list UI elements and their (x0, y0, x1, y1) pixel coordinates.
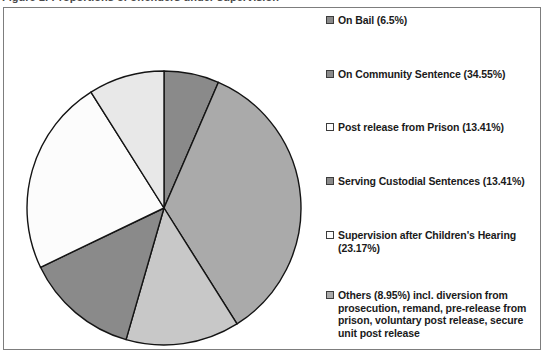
legend-swatch-post-release-from-prison (326, 123, 334, 131)
legend-swatch-on-community-sentence (326, 70, 334, 78)
figure-screenshot: Figure 1: Proportions of offenders under… (0, 0, 544, 354)
legend-label-supervision-after-childrens-hearing: Supervision after Children's Hearing (23… (338, 229, 538, 254)
cut-off-caption: Figure 1: Proportions of offenders under… (0, 0, 544, 7)
pie-slice-group (27, 71, 301, 345)
legend-item-others[interactable]: Others (8.95%) incl. diversion from pros… (326, 289, 538, 339)
legend-swatch-on-bail (326, 16, 334, 24)
legend-label-on-bail: On Bail (6.5%) (338, 14, 407, 27)
legend-swatch-supervision-after-childrens-hearing (326, 231, 334, 239)
legend-item-supervision-after-childrens-hearing[interactable]: Supervision after Children's Hearing (23… (326, 229, 538, 254)
legend-label-others: Others (8.95%) incl. diversion from pros… (338, 289, 538, 339)
legend-swatch-others (326, 291, 334, 299)
legend-item-serving-custodial-sentences[interactable]: Serving Custodial Sentences (13.41%) (326, 175, 538, 188)
legend-label-on-community-sentence: On Community Sentence (34.55%) (338, 68, 505, 81)
legend-label-serving-custodial-sentences: Serving Custodial Sentences (13.41%) (338, 175, 525, 188)
cut-off-caption-text: Figure 1: Proportions of offenders under… (2, 0, 279, 3)
legend-item-post-release-from-prison[interactable]: Post release from Prison (13.41%) (326, 121, 538, 134)
legend-item-on-community-sentence[interactable]: On Community Sentence (34.55%) (326, 68, 538, 81)
chart-legend: On Bail (6.5%) On Community Sentence (34… (316, 8, 540, 349)
legend-item-on-bail[interactable]: On Bail (6.5%) (326, 14, 538, 27)
chart-frame: On Bail (6.5%) On Community Sentence (34… (3, 7, 541, 350)
legend-swatch-serving-custodial-sentences (326, 177, 334, 185)
pie-plot-area (4, 8, 314, 349)
legend-label-post-release-from-prison: Post release from Prison (13.41%) (338, 121, 504, 134)
pie-chart-svg (4, 8, 314, 349)
